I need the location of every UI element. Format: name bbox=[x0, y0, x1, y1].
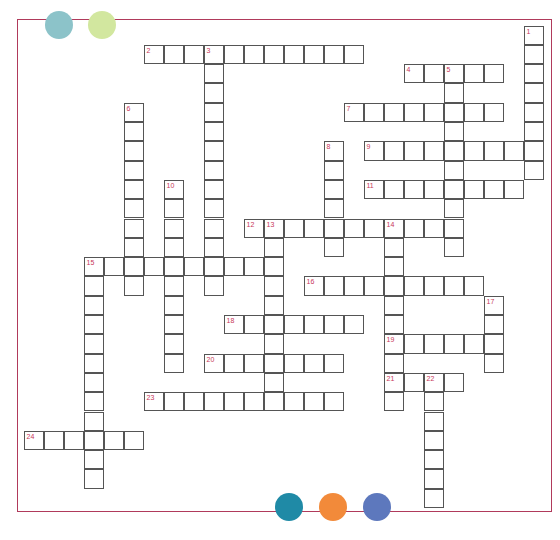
grid-cell[interactable] bbox=[524, 161, 544, 180]
cell-input[interactable] bbox=[445, 279, 463, 296]
cell-input[interactable] bbox=[385, 395, 403, 412]
grid-cell[interactable] bbox=[384, 180, 404, 199]
cell-input[interactable] bbox=[205, 259, 223, 276]
cell-input[interactable] bbox=[185, 259, 203, 276]
cell-input[interactable] bbox=[385, 317, 403, 334]
cell-input[interactable] bbox=[125, 182, 143, 199]
cell-input[interactable] bbox=[205, 202, 223, 219]
cell-input[interactable] bbox=[125, 259, 143, 276]
grid-cell[interactable] bbox=[204, 122, 224, 141]
cell-input[interactable] bbox=[525, 163, 543, 180]
grid-cell[interactable] bbox=[124, 180, 144, 199]
grid-cell[interactable] bbox=[324, 161, 344, 180]
grid-cell[interactable] bbox=[84, 431, 104, 450]
cell-input[interactable] bbox=[485, 144, 503, 161]
cell-input[interactable] bbox=[365, 144, 383, 161]
cell-input[interactable] bbox=[445, 124, 463, 141]
grid-cell[interactable] bbox=[324, 180, 344, 199]
cell-input[interactable] bbox=[385, 375, 403, 392]
grid-cell[interactable] bbox=[424, 180, 444, 199]
cell-input[interactable] bbox=[425, 414, 443, 431]
cell-input[interactable] bbox=[465, 105, 483, 122]
cell-input[interactable] bbox=[125, 105, 143, 122]
cell-input[interactable] bbox=[445, 182, 463, 199]
grid-cell[interactable] bbox=[504, 180, 524, 199]
grid-cell[interactable] bbox=[504, 141, 524, 160]
grid-cell[interactable] bbox=[204, 392, 224, 411]
cell-input[interactable] bbox=[445, 66, 463, 83]
cell-input[interactable] bbox=[205, 105, 223, 122]
cell-input[interactable] bbox=[85, 414, 103, 431]
grid-cell[interactable] bbox=[164, 199, 184, 218]
grid-cell[interactable]: 15 bbox=[84, 257, 104, 276]
grid-cell[interactable] bbox=[224, 392, 244, 411]
grid-cell[interactable] bbox=[84, 392, 104, 411]
cell-input[interactable] bbox=[125, 124, 143, 141]
grid-cell[interactable] bbox=[384, 392, 404, 411]
grid-cell[interactable] bbox=[324, 45, 344, 64]
grid-cell[interactable]: 24 bbox=[24, 431, 44, 450]
cell-input[interactable] bbox=[425, 491, 443, 508]
cell-input[interactable] bbox=[525, 47, 543, 64]
cell-input[interactable] bbox=[325, 221, 343, 238]
cell-input[interactable] bbox=[305, 395, 323, 412]
grid-cell[interactable]: 19 bbox=[384, 334, 404, 353]
cell-input[interactable] bbox=[305, 47, 323, 64]
cell-input[interactable] bbox=[105, 433, 123, 450]
grid-cell[interactable] bbox=[244, 45, 264, 64]
grid-cell[interactable] bbox=[424, 141, 444, 160]
cell-input[interactable] bbox=[385, 240, 403, 257]
cell-input[interactable] bbox=[385, 356, 403, 373]
grid-cell[interactable] bbox=[224, 354, 244, 373]
cell-input[interactable] bbox=[265, 317, 283, 334]
cell-input[interactable] bbox=[445, 163, 463, 180]
cell-input[interactable] bbox=[145, 395, 163, 412]
grid-cell[interactable] bbox=[344, 276, 364, 295]
cell-input[interactable] bbox=[525, 124, 543, 141]
grid-cell[interactable] bbox=[164, 257, 184, 276]
cell-input[interactable] bbox=[345, 47, 363, 64]
grid-cell[interactable] bbox=[304, 45, 324, 64]
grid-cell[interactable] bbox=[84, 315, 104, 334]
grid-cell[interactable] bbox=[404, 276, 424, 295]
cell-input[interactable] bbox=[165, 202, 183, 219]
grid-cell[interactable] bbox=[384, 276, 404, 295]
grid-cell[interactable] bbox=[124, 431, 144, 450]
cell-input[interactable] bbox=[385, 105, 403, 122]
grid-cell[interactable] bbox=[424, 219, 444, 238]
grid-cell[interactable]: 12 bbox=[244, 219, 264, 238]
grid-cell[interactable] bbox=[284, 354, 304, 373]
grid-cell[interactable] bbox=[424, 64, 444, 83]
grid-cell[interactable] bbox=[424, 489, 444, 508]
grid-cell[interactable] bbox=[424, 469, 444, 488]
cell-input[interactable] bbox=[465, 182, 483, 199]
cell-input[interactable] bbox=[205, 279, 223, 296]
cell-input[interactable] bbox=[365, 279, 383, 296]
cell-input[interactable] bbox=[45, 433, 63, 450]
grid-cell[interactable] bbox=[84, 354, 104, 373]
cell-input[interactable] bbox=[85, 317, 103, 334]
cell-input[interactable] bbox=[245, 221, 263, 238]
grid-cell[interactable] bbox=[464, 334, 484, 353]
grid-cell[interactable] bbox=[364, 219, 384, 238]
grid-cell[interactable] bbox=[384, 238, 404, 257]
cell-input[interactable] bbox=[405, 144, 423, 161]
cell-input[interactable] bbox=[85, 356, 103, 373]
grid-cell[interactable] bbox=[424, 103, 444, 122]
grid-cell[interactable] bbox=[244, 354, 264, 373]
cell-input[interactable] bbox=[165, 298, 183, 315]
cell-input[interactable] bbox=[125, 433, 143, 450]
grid-cell[interactable] bbox=[444, 83, 464, 102]
cell-input[interactable] bbox=[165, 259, 183, 276]
cell-input[interactable] bbox=[305, 356, 323, 373]
grid-cell[interactable] bbox=[444, 161, 464, 180]
cell-input[interactable] bbox=[245, 317, 263, 334]
grid-cell[interactable] bbox=[444, 219, 464, 238]
cell-input[interactable] bbox=[385, 221, 403, 238]
cell-input[interactable] bbox=[485, 298, 503, 315]
grid-cell[interactable] bbox=[224, 45, 244, 64]
grid-cell[interactable] bbox=[484, 315, 504, 334]
cell-input[interactable] bbox=[205, 47, 223, 64]
cell-input[interactable] bbox=[485, 337, 503, 354]
grid-cell[interactable] bbox=[324, 276, 344, 295]
